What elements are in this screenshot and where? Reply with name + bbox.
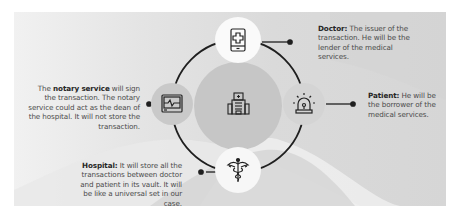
- notary-title: notary service: [53, 84, 110, 93]
- doctor-description: Doctor: The issuer of the transaction. H…: [318, 24, 410, 62]
- notary-node: [151, 83, 193, 125]
- hospital-title: Hospital:: [82, 161, 118, 170]
- hospital-description: Hospital: It will store all the transact…: [70, 161, 182, 208]
- notary-description: The notary service will sign the transac…: [28, 84, 140, 131]
- patient-description: Patient: He will be the borrower of the …: [368, 91, 448, 119]
- doctor-title: Doctor:: [318, 24, 347, 33]
- patient-title: Patient:: [368, 91, 399, 100]
- doctor-node: [215, 17, 261, 63]
- notary-prefix: The: [38, 84, 53, 93]
